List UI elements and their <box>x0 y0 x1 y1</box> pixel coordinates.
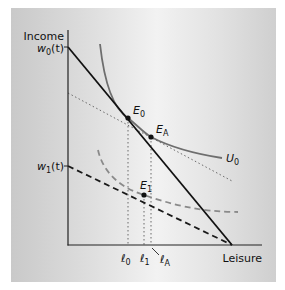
dashed-budget-line-w1 <box>68 166 232 245</box>
x-axis-label: Leisure <box>222 252 262 265</box>
la-label: ℓA <box>159 253 171 268</box>
la-leader-line <box>152 248 159 255</box>
budget-line-w0 <box>68 47 232 245</box>
dashed-indifference-curve <box>98 150 238 212</box>
w1-intercept-label: w1(t) <box>37 160 64 175</box>
indifference-curve-u0 <box>100 44 222 158</box>
labor-leisure-diagram: Income Leisure w0(t) w1(t) E0 EA E1 U0 ℓ… <box>0 0 285 290</box>
l1-label: ℓ1 <box>139 252 150 267</box>
ea-label: EA <box>156 123 169 138</box>
w0-intercept-label: w0(t) <box>37 42 64 57</box>
point-e0 <box>125 115 130 120</box>
l0-label: ℓ0 <box>120 252 131 267</box>
e0-label: E0 <box>133 104 145 119</box>
point-e1 <box>141 192 146 197</box>
e1-label: E1 <box>140 179 152 194</box>
point-ea <box>148 134 153 139</box>
u0-label: U0 <box>226 152 239 167</box>
